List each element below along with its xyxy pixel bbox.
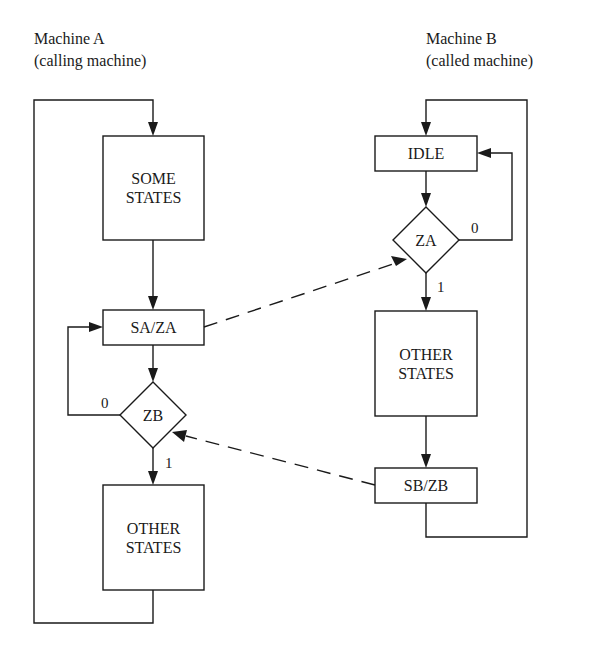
diagram-canvas (0, 0, 590, 651)
zb-node: ZB (120, 382, 186, 448)
arrow-head-icon (89, 322, 103, 332)
zb-label: ZB (143, 406, 163, 425)
machine-b-title: Machine B (called machine) (426, 28, 533, 72)
other-states-b-node: OTHER STATES (375, 311, 477, 416)
machine-a-title: Machine A (calling machine) (34, 28, 146, 72)
other-states-a-label-line1: OTHER (127, 519, 180, 538)
sb-zb-label: SB/ZB (404, 476, 448, 495)
arrow-head-icon (421, 297, 431, 311)
other-states-a-label-line2: STATES (126, 538, 182, 557)
idle-label: IDLE (408, 144, 444, 163)
zb-false-label: 0 (101, 395, 109, 411)
arrow-head-icon (421, 122, 431, 136)
signal-edges (186, 263, 396, 485)
za-true-label: 1 (437, 279, 445, 295)
machine-a-title-line1: Machine A (34, 28, 146, 50)
machine-a-title-line2: (calling machine) (34, 50, 146, 72)
arrow-head-icon (148, 122, 158, 136)
some-states-label-line1: SOME (131, 169, 175, 188)
arrow-head-icon (148, 296, 158, 310)
other-states-b-label-line1: OTHER (399, 345, 452, 364)
machine-b-title-line2: (called machine) (426, 50, 533, 72)
zb-true-label: 1 (165, 455, 173, 471)
machine-b-title-line1: Machine B (426, 28, 533, 50)
signal-zb-edge (186, 436, 375, 485)
za-label: ZA (415, 231, 436, 250)
arrow-head-icon (148, 368, 158, 382)
some-states-node: SOME STATES (103, 136, 204, 240)
arrow-head-icon (421, 193, 431, 207)
arrow-head-icon (421, 454, 431, 468)
arrow-head-icon (148, 471, 158, 485)
arrow-head-icon (477, 148, 491, 158)
other-states-b-label-line2: STATES (398, 364, 454, 383)
signal-za-edge (204, 263, 396, 327)
some-states-label-line2: STATES (126, 188, 182, 207)
sb-zb-node: SB/ZB (375, 468, 477, 503)
other-states-a-node: OTHER STATES (103, 485, 204, 590)
za-false-label: 0 (471, 220, 479, 236)
sa-za-label: SA/ZA (130, 318, 176, 337)
za-node: ZA (393, 207, 459, 273)
idle-node: IDLE (375, 136, 477, 171)
sa-za-node: SA/ZA (103, 310, 204, 345)
